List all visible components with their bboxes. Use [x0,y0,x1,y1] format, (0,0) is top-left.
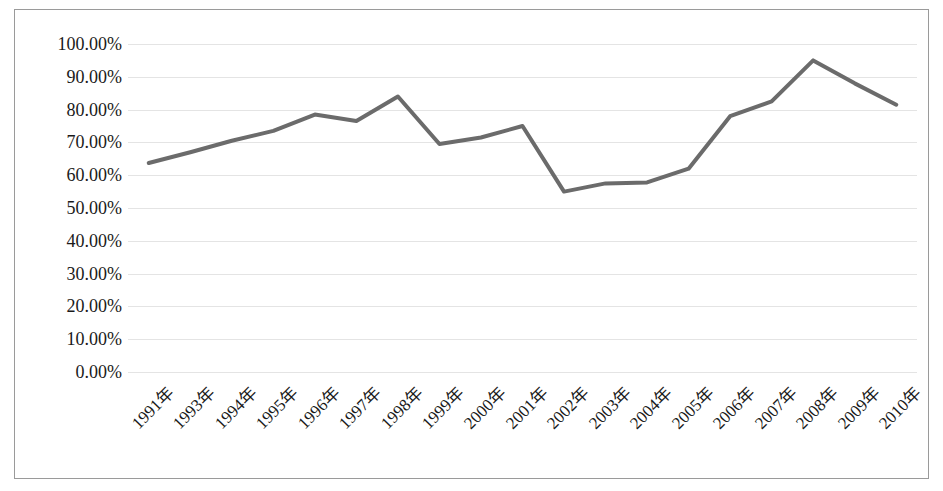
chart-plot-area: 100.00%90.00%80.00%70.00%60.00%50.00%40.… [0,0,943,491]
x-axis-labels: 1991年1993年1994年1995年1996年1997年1998年1999年… [0,0,943,491]
